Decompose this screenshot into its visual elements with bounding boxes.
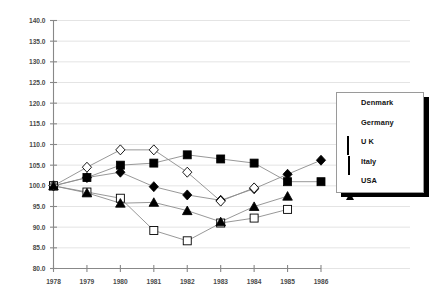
data-point-u-k <box>284 205 292 213</box>
legend: Denmark Germany U K Italy USA <box>336 92 424 193</box>
y-tick-label: 140.0 <box>29 17 46 24</box>
legend-label: U K <box>361 137 374 146</box>
data-point-denmark <box>250 159 258 167</box>
data-point-usa <box>182 206 192 215</box>
x-tick-label: 1981 <box>146 278 161 285</box>
legend-label: Germany <box>361 118 394 127</box>
data-point-italy <box>82 162 91 172</box>
filled-triangle-icon <box>346 176 355 185</box>
series-markers <box>49 145 326 245</box>
y-tick-label: 90.0 <box>33 224 46 231</box>
data-point-germany <box>316 155 325 165</box>
x-tick-label: 1985 <box>280 278 295 285</box>
y-tick-label: 95.0 <box>33 203 46 210</box>
data-point-u-k <box>183 237 191 245</box>
x-tick-label: 1986 <box>314 278 329 285</box>
data-point-italy <box>250 183 259 193</box>
legend-label: Denmark <box>361 98 393 107</box>
x-tick-label: 1979 <box>80 278 95 285</box>
data-point-denmark <box>150 159 158 167</box>
y-tick-label: 80.0 <box>33 265 46 272</box>
data-point-usa <box>283 192 293 201</box>
open-square-icon <box>346 137 355 146</box>
y-tick-label: 115.0 <box>29 120 45 127</box>
data-point-italy <box>116 145 125 155</box>
open-diamond-icon <box>346 157 355 166</box>
data-point-u-k <box>250 214 258 222</box>
data-point-denmark <box>183 151 191 159</box>
x-tick-label: 1978 <box>46 278 61 285</box>
legend-label: Italy <box>361 157 376 166</box>
data-point-germany <box>149 182 158 192</box>
data-point-italy <box>149 145 158 155</box>
y-tick-label: 85.0 <box>33 244 46 251</box>
x-axis-labels: 197819791980198119821983198419851986 <box>46 278 329 285</box>
x-tick-label: 1984 <box>247 278 262 285</box>
legend-item-uk[interactable]: U K <box>337 132 423 152</box>
legend-label: USA <box>361 176 377 185</box>
y-tick-label: 125.0 <box>29 79 46 86</box>
legend-item-germany[interactable]: Germany <box>337 113 423 133</box>
y-tick-label: 120.0 <box>29 100 46 107</box>
y-tick-label: 130.0 <box>29 58 46 65</box>
x-tick-label: 1982 <box>180 278 195 285</box>
data-point-italy <box>216 196 225 206</box>
data-point-denmark <box>317 178 325 186</box>
legend-item-italy[interactable]: Italy <box>337 152 423 172</box>
y-axis-labels: 80.085.090.095.0100.0105.0110.0115.0120.… <box>29 17 46 272</box>
y-tick-label: 105.0 <box>29 162 46 169</box>
y-tick-label: 110.0 <box>29 141 45 148</box>
data-point-u-k <box>150 226 158 234</box>
data-point-denmark <box>217 155 225 163</box>
x-tick-label: 1980 <box>113 278 128 285</box>
legend-item-denmark[interactable]: Denmark <box>337 93 423 113</box>
data-point-italy <box>183 167 192 177</box>
y-tick-label: 135.0 <box>29 38 46 45</box>
filled-square-icon <box>346 98 355 107</box>
filled-diamond-icon <box>346 118 355 127</box>
x-tick-label: 1983 <box>213 278 228 285</box>
chart-page: 80.085.090.095.0100.0105.0110.0115.0120.… <box>0 0 429 305</box>
data-point-germany <box>183 190 192 200</box>
y-tick-label: 100.0 <box>29 182 46 189</box>
